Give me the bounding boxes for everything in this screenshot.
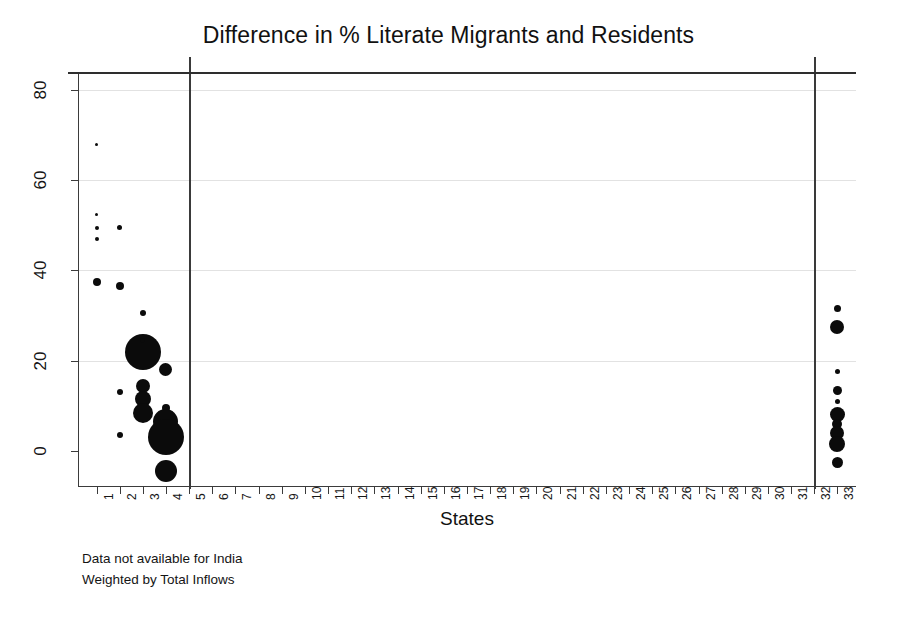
scatter-point [93, 278, 101, 286]
x-tick-label: 31 [796, 487, 810, 500]
x-tick-label: 17 [472, 487, 486, 500]
y-axis-line [78, 72, 79, 487]
x-tick-label: 25 [657, 487, 671, 500]
scatter-point [117, 432, 123, 438]
x-tick-label: 14 [403, 487, 417, 500]
x-tick-mark [652, 487, 653, 494]
scatter-point [133, 403, 153, 423]
vertical-reference-line [814, 57, 816, 489]
gridline [78, 90, 856, 91]
scatter-point [117, 225, 122, 230]
footnote-line: Data not available for India [82, 548, 243, 569]
gridline [78, 180, 856, 181]
x-tick-mark [421, 487, 422, 494]
x-tick-mark [282, 487, 283, 494]
x-tick-label: 22 [588, 487, 602, 500]
x-tick-mark [768, 487, 769, 494]
x-tick-label: 12 [356, 487, 370, 500]
x-axis-title: States [78, 508, 856, 530]
scatter-point [832, 457, 843, 468]
x-tick-mark [143, 487, 144, 494]
x-tick-mark [583, 487, 584, 494]
y-tick-mark [71, 270, 79, 271]
scatter-point [159, 363, 172, 376]
x-tick-label: 21 [565, 487, 579, 500]
x-tick-label: 19 [518, 487, 532, 500]
x-tick-mark [120, 487, 121, 494]
y-tick-mark [71, 180, 79, 181]
x-tick-mark [351, 487, 352, 494]
x-tick-label: 3 [148, 493, 162, 500]
x-tick-mark [166, 487, 167, 494]
chart-figure: Difference in % Literate Migrants and Re… [0, 0, 897, 617]
x-tick-label: 11 [333, 488, 347, 500]
x-tick-mark [398, 487, 399, 494]
scatter-point [95, 226, 99, 230]
x-tick-mark [374, 487, 375, 494]
x-tick-label: 13 [379, 487, 393, 500]
scatter-point [835, 369, 840, 374]
x-tick-mark [722, 487, 723, 494]
x-tick-label: 15 [426, 487, 440, 500]
x-tick-mark [212, 487, 213, 494]
x-tick-label: 28 [727, 487, 741, 500]
x-tick-label: 27 [704, 487, 718, 500]
x-tick-label: 32 [819, 487, 833, 500]
x-tick-label: 33 [842, 487, 856, 500]
gridline [78, 270, 856, 271]
x-tick-mark [467, 487, 468, 494]
scatter-point [140, 310, 146, 316]
x-tick-mark [837, 487, 838, 494]
scatter-point [833, 386, 842, 395]
y-tick-label: 0 [31, 431, 51, 471]
scatter-point [148, 419, 184, 455]
x-tick-mark [189, 487, 190, 494]
x-tick-mark [791, 487, 792, 494]
scatter-point [95, 143, 98, 146]
scatter-point [829, 436, 845, 452]
gridline [78, 361, 856, 362]
x-tick-label: 10 [310, 487, 324, 500]
x-tick-label: 23 [611, 487, 625, 500]
y-tick-mark [71, 451, 79, 452]
scatter-point [835, 399, 840, 404]
x-tick-label: 1 [102, 493, 116, 500]
x-tick-label: 2 [125, 493, 139, 500]
scatter-point [117, 389, 123, 395]
chart-title: Difference in % Literate Migrants and Re… [0, 22, 897, 49]
x-tick-mark [536, 487, 537, 494]
x-tick-label: 16 [449, 487, 463, 500]
footnote-line: Weighted by Total Inflows [82, 569, 243, 590]
scatter-point [116, 282, 124, 290]
x-tick-label: 18 [495, 487, 509, 500]
x-tick-mark [235, 487, 236, 494]
scatter-point [95, 213, 98, 216]
footnotes: Data not available for India Weighted by… [82, 548, 243, 590]
x-tick-mark [745, 487, 746, 494]
x-tick-label: 26 [680, 487, 694, 500]
x-tick-label: 8 [264, 493, 278, 500]
x-tick-mark [606, 487, 607, 494]
y-tick-label: 40 [31, 250, 51, 290]
x-tick-label: 29 [750, 487, 764, 500]
plot-area: 020406080 123456789101112131415161718192… [78, 72, 856, 487]
scatter-point [830, 320, 844, 334]
x-tick-label: 4 [171, 493, 185, 500]
x-tick-mark [560, 487, 561, 494]
zero-reference-line [68, 72, 856, 74]
x-tick-mark [629, 487, 630, 494]
x-tick-label: 5 [194, 493, 208, 500]
x-tick-mark [305, 487, 306, 494]
x-tick-mark [328, 487, 329, 494]
x-tick-mark [513, 487, 514, 494]
x-tick-mark [675, 487, 676, 494]
x-tick-label: 24 [634, 487, 648, 500]
x-tick-mark [259, 487, 260, 494]
x-tick-mark [97, 487, 98, 494]
y-tick-mark [71, 90, 79, 91]
y-tick-label: 20 [31, 341, 51, 381]
x-tick-label: 6 [217, 493, 231, 500]
y-tick-label: 80 [31, 70, 51, 110]
vertical-reference-line [189, 57, 191, 489]
x-tick-label: 30 [773, 487, 787, 500]
